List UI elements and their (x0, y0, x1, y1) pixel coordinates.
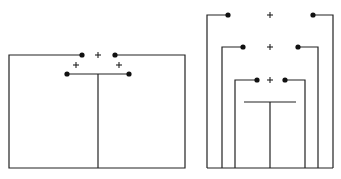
middle-right-wire (298, 47, 318, 168)
terminal-dot (310, 12, 315, 17)
terminal-dot (126, 71, 131, 76)
terminal-dot (112, 52, 117, 57)
plus-sign-icon (73, 62, 79, 68)
terminal-dot (225, 12, 230, 17)
diagram-canvas (0, 0, 341, 179)
left-frame-wire (9, 55, 185, 168)
terminal-dot (240, 44, 245, 49)
terminal-dot (64, 71, 69, 76)
plus-sign-icon (116, 62, 122, 68)
terminal-dot (295, 44, 300, 49)
left-diagram (9, 52, 185, 168)
plus-sign-icon (267, 12, 273, 18)
plus-sign-icon (267, 77, 273, 83)
right-diagram (207, 12, 333, 168)
terminal-dot (79, 52, 84, 57)
inner-left-wire (235, 80, 257, 168)
terminal-dot (282, 77, 287, 82)
outer-right-wire (313, 15, 333, 168)
inner-right-wire (285, 80, 305, 168)
middle-left-wire (222, 47, 243, 168)
plus-sign-icon (95, 52, 101, 58)
plus-sign-icon (267, 44, 273, 50)
terminal-dot (254, 77, 259, 82)
outer-left-wire (207, 15, 228, 168)
